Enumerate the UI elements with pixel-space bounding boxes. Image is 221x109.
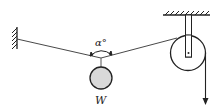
angle-label: α° [95,38,107,48]
rope-left [17,39,101,58]
weight-label: W [95,95,106,106]
angle-arc [90,51,112,56]
pulley-axle [188,52,190,54]
left-wall [12,27,17,49]
weight-ball [90,67,112,89]
statics-diagram [0,0,221,109]
pull-force-arrow-icon [203,98,209,105]
ceiling [163,11,210,15]
